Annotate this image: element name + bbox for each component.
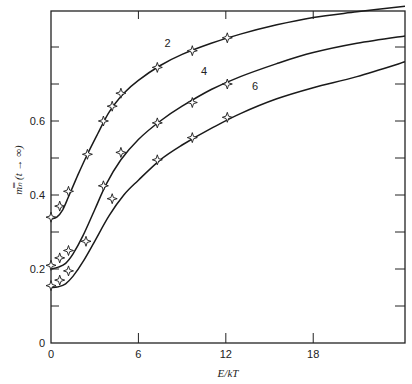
y-tick-label: 0.6	[30, 115, 45, 127]
data-point-marker	[152, 62, 162, 72]
y-tick-label: 0.2	[30, 263, 45, 275]
curve-label-2: 2	[164, 37, 170, 49]
x-axis-title: E/kT	[217, 367, 240, 379]
data-point-marker	[64, 266, 74, 276]
curve-n-4	[51, 36, 405, 269]
curve-n-6	[51, 62, 405, 288]
axis-ticks	[51, 11, 405, 343]
y-axis-title: m̿ₙ (t → ∞)	[12, 145, 25, 195]
data-point-marker	[107, 194, 117, 204]
y-tick-label: 0.4	[30, 189, 45, 201]
chart: 06121800.20.40.6 246 E/kT m̿ₙ (t → ∞)	[0, 0, 412, 384]
data-point-marker	[64, 246, 74, 256]
x-tick-label: 6	[135, 348, 141, 360]
data-point-marker	[55, 275, 65, 285]
data-point-marker	[152, 155, 162, 165]
data-point-marker	[222, 33, 232, 43]
data-point-marker	[116, 88, 126, 98]
x-tick-label: 0	[48, 348, 54, 360]
curves	[51, 6, 405, 287]
plot-frame	[51, 11, 405, 343]
data-point-marker	[222, 112, 232, 122]
data-point-marker	[187, 98, 197, 108]
data-point-marker	[98, 116, 108, 126]
curve-labels: 246	[164, 37, 258, 92]
curve-label-6: 6	[252, 80, 258, 92]
data-point-marker	[82, 149, 92, 159]
x-tick-label: 12	[220, 348, 232, 360]
curve-label-4: 4	[201, 65, 207, 77]
y-tick-label: 0	[39, 337, 45, 349]
data-point-marker	[55, 253, 65, 263]
data-point-marker	[46, 281, 56, 291]
axis-tick-labels: 06121800.20.40.6	[30, 115, 320, 360]
x-tick-label: 18	[307, 348, 319, 360]
data-point-marker	[46, 212, 56, 222]
data-point-marker	[187, 46, 197, 56]
